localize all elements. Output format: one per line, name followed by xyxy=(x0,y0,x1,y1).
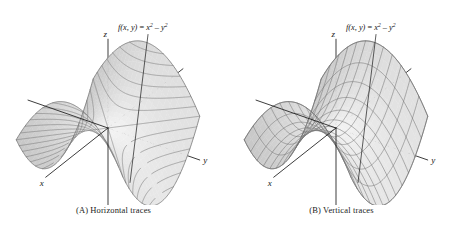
axis-label-y: y xyxy=(430,155,435,165)
caption-tag-b: (B) xyxy=(309,205,321,215)
axis-label-y: y xyxy=(202,155,207,165)
caption-text-a: Horizontal traces xyxy=(90,205,151,215)
caption-text-b: Vertical traces xyxy=(323,205,374,215)
axis-label-z: z xyxy=(331,29,336,39)
axis-label-x: x xyxy=(267,178,272,188)
caption-panel-b: (B)Vertical traces xyxy=(228,205,455,215)
function-label: f(x, y) = x2 – y2 xyxy=(118,22,168,32)
function-label: f(x, y) = x2 – y2 xyxy=(346,22,396,32)
panel-vertical-traces: zxyf(x, y) = x2 – y2 (B)Vertical traces xyxy=(228,0,455,232)
surface-plot-horizontal: zxyf(x, y) = x2 – y2 xyxy=(0,0,227,205)
axis-label-x: x xyxy=(39,178,44,188)
surface-plot-vertical: zxyf(x, y) = x2 – y2 xyxy=(228,0,455,205)
saddle-traces-figure: zxyf(x, y) = x2 – y2 (A)Horizontal trace… xyxy=(0,0,455,232)
caption-panel-a: (A)Horizontal traces xyxy=(0,205,227,215)
caption-tag-a: (A) xyxy=(76,205,88,215)
panel-horizontal-traces: zxyf(x, y) = x2 – y2 (A)Horizontal trace… xyxy=(0,0,227,232)
axis-label-z: z xyxy=(103,29,108,39)
